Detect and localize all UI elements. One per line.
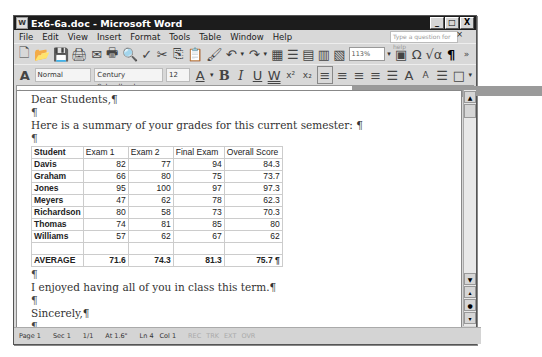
font-size-select[interactable]: 12	[166, 68, 190, 82]
cell-overall: 84.3	[224, 159, 282, 171]
cell-average-final: 81.3	[173, 255, 224, 267]
cut-icon[interactable]: ✂	[156, 46, 169, 62]
copy-icon[interactable]: ⎘	[172, 46, 185, 62]
redo-icon[interactable]: ↷	[248, 46, 261, 62]
omega-icon[interactable]: Ω	[410, 46, 423, 62]
status-bar: Page 1 Sec 1 1/1 At 1.6" Ln 4 Col 1 REC …	[14, 327, 481, 344]
menu-view[interactable]: View	[68, 32, 88, 42]
grades-table[interactable]: Student Exam 1 Exam 2 Final Exam Overall…	[31, 146, 283, 267]
style-select[interactable]: Normal	[35, 68, 92, 82]
align-right-icon[interactable]: ≡	[352, 67, 366, 83]
new-icon[interactable]: 🗋	[18, 46, 31, 62]
status-line: Ln 4	[140, 332, 154, 340]
columns-icon[interactable]: ▥	[318, 46, 331, 62]
close-button[interactable]: X	[460, 17, 474, 29]
permission-icon[interactable]: 🖨	[72, 46, 88, 62]
italic-button[interactable]: I	[234, 67, 248, 83]
font-select[interactable]: Century Schoolbook	[94, 68, 163, 82]
status-section: Sec 1	[53, 332, 71, 340]
status-rec[interactable]: REC	[188, 332, 201, 340]
open-icon[interactable]: 📂	[34, 46, 50, 62]
document-area[interactable]: Dear Students,¶ ¶ Here is a summary of y…	[16, 90, 462, 328]
equation-icon[interactable]: √α	[426, 46, 442, 62]
table-row: Williams 57 62 67 62	[32, 231, 283, 243]
bold-button[interactable]: B	[217, 67, 231, 83]
font-color-icon[interactable]: A	[193, 67, 207, 83]
document-body[interactable]: Dear Students,¶ ¶ Here is a summary of y…	[31, 93, 363, 328]
cell-overall: 62	[224, 231, 282, 243]
empty-paragraph: ¶	[31, 132, 363, 145]
print-preview-icon[interactable]: 🔍	[122, 46, 138, 62]
paste-icon[interactable]: 📋	[187, 46, 203, 62]
show-hide-icon[interactable]: ¶	[445, 46, 458, 62]
save-icon[interactable]: 💾	[53, 46, 69, 62]
table-row: Meyers 47 62 78 62.3	[32, 195, 283, 207]
undo-icon[interactable]: ↶	[225, 46, 238, 62]
bullets-icon[interactable]: ☰	[435, 67, 449, 83]
header-overall: Overall Score	[224, 147, 282, 159]
select-browse-object-button[interactable]: ●	[464, 299, 476, 311]
title-bar[interactable]: W Ex6-6a.doc - Microsoft Word _ □ X	[14, 16, 476, 30]
print-icon[interactable]: 🖶	[106, 46, 119, 62]
menu-tools[interactable]: Tools	[169, 32, 190, 42]
insert-excel-icon[interactable]: ▤	[302, 46, 315, 62]
scroll-down-button[interactable]: ▼	[464, 273, 476, 285]
grow-font-icon[interactable]: A	[402, 67, 416, 83]
header-exam2: Exam 2	[128, 147, 173, 159]
scroll-thumb[interactable]	[464, 104, 476, 118]
redo-dropdown[interactable]: ▾	[264, 50, 268, 58]
status-ext[interactable]: EXT	[224, 332, 236, 340]
minimize-button[interactable]: _	[430, 17, 444, 29]
previous-page-button[interactable]: ▴	[464, 286, 476, 298]
maximize-button[interactable]: □	[445, 17, 459, 29]
intro-line: Here is a summary of your grades for thi…	[31, 119, 363, 132]
styles-icon[interactable]: A	[18, 67, 32, 83]
status-ovr[interactable]: OVR	[241, 332, 255, 340]
menu-file[interactable]: File	[19, 32, 33, 42]
drawing-icon[interactable]: ▧	[333, 46, 346, 62]
tables-icon[interactable]: ▦	[271, 46, 284, 62]
menu-insert[interactable]: Insert	[97, 32, 121, 42]
underline-button[interactable]: U	[251, 67, 265, 83]
double-underline-button[interactable]: W	[267, 67, 281, 83]
insert-table-icon[interactable]: ☰	[287, 46, 300, 62]
next-page-button[interactable]: ▾	[464, 312, 476, 324]
cell-student: Meyers	[32, 195, 84, 207]
menu-help[interactable]: Help	[273, 32, 292, 42]
undo-dropdown[interactable]: ▾	[241, 50, 245, 58]
cell-overall	[224, 243, 282, 255]
status-trk[interactable]: TRK	[206, 332, 219, 340]
vertical-scrollbar[interactable]: ▲ ▼ ▴ ● ▾	[463, 90, 476, 326]
menu-format[interactable]: Format	[130, 32, 160, 42]
zoom-dropdown[interactable]: ▾	[387, 50, 391, 58]
scroll-up-button[interactable]: ▲	[464, 91, 476, 103]
font-color-dropdown[interactable]: ▾	[210, 71, 214, 79]
shrink-font-icon[interactable]: A	[419, 67, 433, 83]
email-icon[interactable]: ✉	[91, 46, 104, 62]
border-icon[interactable]: □	[452, 67, 466, 83]
toolbar-options-icon[interactable]: »	[460, 46, 473, 62]
justify-icon[interactable]: ≡	[369, 67, 383, 83]
align-center-icon[interactable]: ≡	[336, 67, 350, 83]
table-average-row: AVERAGE 71.6 74.3 81.3 75.7 ¶	[32, 255, 283, 267]
help-search-input[interactable]: Type a question for help	[390, 31, 458, 43]
cell-student: Thomas	[32, 219, 84, 231]
superscript-button[interactable]: x²	[284, 67, 298, 83]
line-spacing-icon[interactable]: ☰	[386, 67, 400, 83]
menu-edit[interactable]: Edit	[42, 32, 58, 42]
spelling-icon[interactable]: ✓	[141, 46, 154, 62]
cell-exam1: 80	[83, 207, 128, 219]
menu-table[interactable]: Table	[199, 32, 221, 42]
border-dropdown[interactable]: ▾	[469, 71, 473, 79]
zoom-input[interactable]: 113%	[349, 47, 386, 61]
cell-final	[173, 243, 224, 255]
table-row: Davis 82 77 94 84.3	[32, 159, 283, 171]
cell-final: 67	[173, 231, 224, 243]
align-left-icon[interactable]: ≡	[317, 66, 333, 84]
close-document-button[interactable]: ×	[456, 30, 463, 39]
subscript-button[interactable]: x₂	[301, 67, 315, 83]
cell-overall: 70.3	[224, 207, 282, 219]
menu-window[interactable]: Window	[230, 32, 264, 42]
cell-average-label: AVERAGE	[32, 255, 84, 267]
format-painter-icon[interactable]: 🖌	[206, 46, 222, 62]
